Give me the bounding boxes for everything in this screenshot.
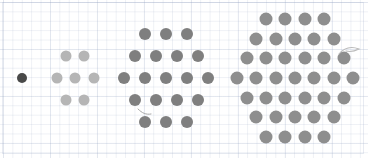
dot [289,72,302,85]
dot [337,52,350,65]
dot [318,130,331,143]
dot [269,32,282,45]
dot [279,13,292,26]
dot [347,72,360,85]
dot [250,32,263,45]
dot [289,111,302,124]
dot [279,52,292,65]
dot [327,72,340,85]
dot [240,91,253,104]
dot [327,111,340,124]
dot [250,111,263,124]
dot [298,52,311,65]
dot [240,52,253,65]
dot-group-4 [0,0,368,158]
dot [308,72,321,85]
dot [318,91,331,104]
dot [337,91,350,104]
dot [259,130,272,143]
dot [279,91,292,104]
dot [279,130,292,143]
dot [308,111,321,124]
dot [308,32,321,45]
dot [230,72,243,85]
dot [318,13,331,26]
dot [259,91,272,104]
dot [259,52,272,65]
dot [318,52,331,65]
dot [259,13,272,26]
dot [250,72,263,85]
dot-pattern-diagram [0,0,368,158]
dot [298,13,311,26]
dot [298,130,311,143]
dot [298,91,311,104]
dot [269,111,282,124]
dot [289,32,302,45]
dot [327,32,340,45]
dot [269,72,282,85]
